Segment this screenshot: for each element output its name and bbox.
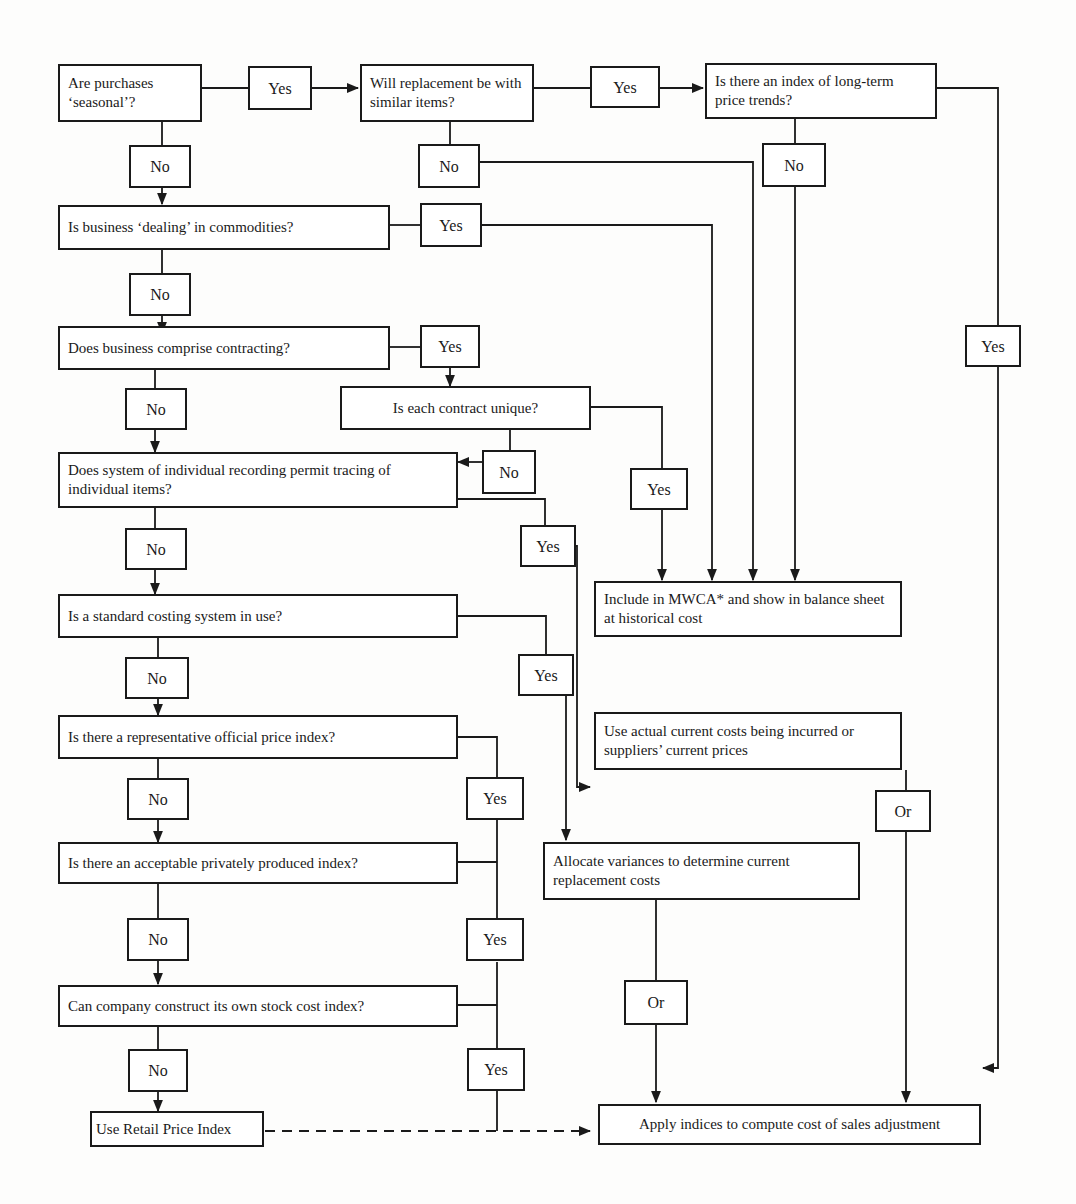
label-text: Yes	[438, 337, 461, 356]
question-similar-items: Will replacement be with similar items?	[360, 64, 534, 122]
outcome-mwca: Include in MWCA* and show in balance she…	[594, 581, 902, 637]
label-no: No	[418, 144, 480, 188]
outcome-text: Allocate variances to determine current …	[553, 852, 850, 890]
outcome-allocate-variances: Allocate variances to determine current …	[543, 842, 860, 900]
question-text: Is each contract unique?	[393, 399, 538, 418]
question-contract-unique: Is each contract unique?	[340, 386, 591, 430]
label-text: No	[150, 285, 170, 304]
label-text: Yes	[981, 337, 1004, 356]
label-text: Yes	[439, 216, 462, 235]
question-text: Is there an acceptable privately produce…	[68, 854, 358, 873]
label-yes: Yes	[466, 777, 524, 820]
question-text: Is a standard costing system in use?	[68, 607, 282, 626]
label-no: No	[129, 145, 191, 188]
label-text: No	[147, 669, 167, 688]
outcome-actual-costs: Use actual current costs being incurred …	[594, 712, 902, 770]
label-text: Yes	[484, 1060, 507, 1079]
label-yes: Yes	[520, 525, 576, 567]
label-text: No	[148, 930, 168, 949]
label-yes: Yes	[467, 1048, 525, 1091]
outcome-apply-indices: Apply indices to compute cost of sales a…	[598, 1104, 981, 1145]
flowchart-canvas: Are purchases ‘seasonal’? Will replaceme…	[0, 0, 1076, 1204]
label-text: No	[148, 1061, 168, 1080]
question-contracting: Does business comprise contracting?	[58, 326, 390, 370]
question-text: Is there a representative official price…	[68, 728, 335, 747]
label-no: No	[125, 657, 189, 699]
label-no: No	[128, 1049, 188, 1092]
label-yes: Yes	[965, 325, 1021, 367]
label-text: No	[784, 156, 804, 175]
label-text: No	[439, 157, 459, 176]
question-text: Is there an index of long-term price tre…	[715, 72, 927, 110]
outcome-text: Use Retail Price Index	[96, 1120, 231, 1139]
question-official-index: Is there a representative official price…	[58, 715, 458, 759]
question-dealing-commodities: Is business ‘dealing’ in commodities?	[58, 205, 390, 250]
label-no: No	[127, 918, 189, 961]
label-text: Yes	[647, 480, 670, 499]
outcome-retail-price-index: Use Retail Price Index	[90, 1111, 264, 1147]
label-text: Yes	[534, 666, 557, 685]
question-private-index: Is there an acceptable privately produce…	[58, 842, 458, 884]
label-or: Or	[624, 980, 688, 1025]
question-text: Does business comprise contracting?	[68, 339, 290, 358]
label-text: Or	[648, 993, 665, 1012]
question-text: Will replacement be with similar items?	[370, 74, 524, 112]
outcome-text: Apply indices to compute cost of sales a…	[639, 1115, 940, 1134]
question-long-term-index: Is there an index of long-term price tre…	[705, 63, 937, 119]
label-no: No	[482, 450, 536, 494]
label-text: No	[150, 157, 170, 176]
label-yes: Yes	[466, 918, 524, 961]
label-text: Yes	[483, 789, 506, 808]
label-no: No	[762, 143, 826, 187]
question-text: Are purchases ‘seasonal’?	[68, 74, 192, 112]
label-text: No	[148, 790, 168, 809]
label-no: No	[129, 273, 191, 316]
outcome-text: Use actual current costs being incurred …	[604, 722, 892, 760]
label-text: Yes	[536, 537, 559, 556]
label-text: No	[499, 463, 519, 482]
label-no: No	[125, 528, 187, 570]
question-text: Is business ‘dealing’ in commodities?	[68, 218, 294, 237]
label-text: Yes	[613, 78, 636, 97]
label-or: Or	[875, 790, 931, 832]
label-yes: Yes	[420, 325, 480, 368]
label-no: No	[125, 388, 187, 430]
label-yes: Yes	[420, 203, 482, 247]
label-yes: Yes	[630, 468, 688, 510]
label-text: No	[146, 540, 166, 559]
label-text: Yes	[268, 79, 291, 98]
question-individual-recording: Does system of individual recording perm…	[58, 452, 458, 508]
question-own-index: Can company construct its own stock cost…	[58, 985, 458, 1027]
question-text: Can company construct its own stock cost…	[68, 997, 364, 1016]
label-no: No	[127, 778, 189, 820]
question-text: Does system of individual recording perm…	[68, 461, 448, 499]
outcome-text: Include in MWCA* and show in balance she…	[604, 590, 892, 628]
label-yes: Yes	[248, 66, 312, 110]
label-text: Or	[895, 802, 912, 821]
label-yes: Yes	[590, 66, 660, 108]
label-text: Yes	[483, 930, 506, 949]
question-standard-costing: Is a standard costing system in use?	[58, 594, 458, 638]
label-text: No	[146, 400, 166, 419]
question-seasonal: Are purchases ‘seasonal’?	[58, 64, 202, 122]
label-yes: Yes	[518, 654, 574, 696]
